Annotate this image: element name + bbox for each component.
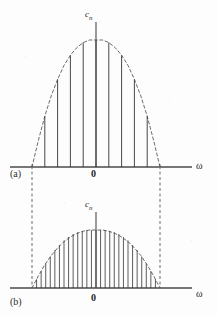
figure-root: cn 0 ω (a) cn 0 ω (b) (0, 0, 217, 317)
panel-connector-lines (0, 0, 217, 317)
